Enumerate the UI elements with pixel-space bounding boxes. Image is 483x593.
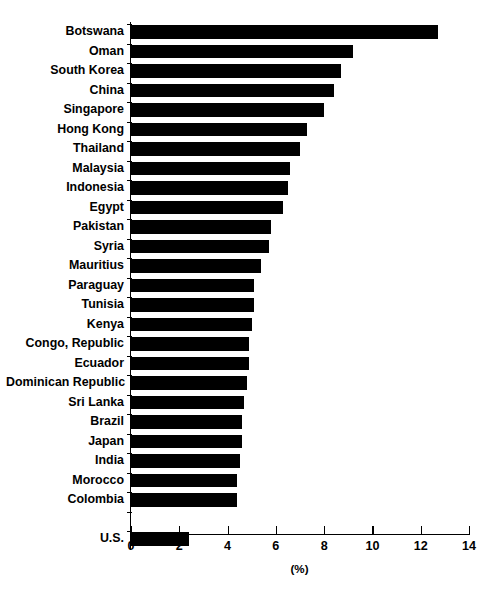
bar-track — [131, 217, 469, 237]
bar-row: Egypt — [0, 198, 483, 218]
category-label — [6, 510, 130, 530]
category-label: Hong Kong — [6, 120, 130, 140]
bar — [131, 64, 341, 78]
category-label: Oman — [6, 42, 130, 62]
category-label: Dominican Republic — [6, 373, 130, 393]
x-axis-tick-label: 0 — [111, 539, 151, 553]
bar-track — [131, 354, 469, 374]
bar-track — [131, 256, 469, 276]
bar — [131, 45, 353, 59]
x-axis-tick-label: 6 — [256, 539, 296, 553]
bar-row: Morocco — [0, 471, 483, 491]
bar-track — [131, 159, 469, 179]
bar-row — [0, 510, 483, 530]
bar-row: Hong Kong — [0, 120, 483, 140]
bar — [131, 201, 283, 215]
bar-track — [131, 42, 469, 62]
x-axis-tick — [324, 526, 325, 535]
bar — [131, 396, 244, 410]
x-axis-tick — [421, 526, 422, 535]
bar-row: South Korea — [0, 61, 483, 81]
bar-track — [131, 510, 469, 530]
bar-track — [131, 393, 469, 413]
bar-row: Singapore — [0, 100, 483, 120]
bar-chart: BotswanaOmanSouth KoreaChinaSingaporeHon… — [0, 0, 483, 593]
x-axis-tick-label: 8 — [304, 539, 344, 553]
category-label: Botswana — [6, 22, 130, 42]
bar-row: Syria — [0, 237, 483, 257]
bar-track — [131, 120, 469, 140]
bar-track — [131, 81, 469, 101]
category-label: Mauritius — [6, 256, 130, 276]
x-axis-tick — [372, 526, 373, 535]
bar-row: Dominican Republic — [0, 373, 483, 393]
bar-row: Paraguay — [0, 276, 483, 296]
x-axis-line — [130, 534, 469, 535]
bar-track — [131, 61, 469, 81]
x-axis-tick — [228, 526, 229, 535]
bar — [131, 220, 271, 234]
bar-row: Colombia — [0, 490, 483, 510]
bar-row: Brazil — [0, 412, 483, 432]
bar-track — [131, 198, 469, 218]
plot-area: BotswanaOmanSouth KoreaChinaSingaporeHon… — [0, 0, 483, 593]
category-label: Tunisia — [6, 295, 130, 315]
bar-row: Ecuador — [0, 354, 483, 374]
x-axis-tick — [179, 526, 180, 535]
category-label: Japan — [6, 432, 130, 452]
bar — [131, 103, 324, 117]
bar — [131, 84, 334, 98]
bar-track — [131, 237, 469, 257]
x-axis-tick-label: 2 — [159, 539, 199, 553]
bar-track — [131, 334, 469, 354]
category-label: Singapore — [6, 100, 130, 120]
bar-track — [131, 100, 469, 120]
category-label: Thailand — [6, 139, 130, 159]
category-label: Paraguay — [6, 276, 130, 296]
bar — [131, 493, 237, 507]
bar — [131, 279, 254, 293]
bar — [131, 123, 307, 137]
bar — [131, 318, 252, 332]
category-label: Ecuador — [6, 354, 130, 374]
bar-row: Tunisia — [0, 295, 483, 315]
x-axis-tick — [276, 526, 277, 535]
bar-row: Mauritius — [0, 256, 483, 276]
bar-row: Japan — [0, 432, 483, 452]
bar — [131, 259, 261, 273]
category-label: India — [6, 451, 130, 471]
bar-row: Kenya — [0, 315, 483, 335]
bar — [131, 415, 242, 429]
bar-row: Pakistan — [0, 217, 483, 237]
category-label: Brazil — [6, 412, 130, 432]
bar-track — [131, 471, 469, 491]
bar — [131, 240, 269, 254]
category-label: South Korea — [6, 61, 130, 81]
bar-track — [131, 412, 469, 432]
bar-track — [131, 295, 469, 315]
x-axis-tick-label: 14 — [449, 539, 483, 553]
bar — [131, 474, 237, 488]
bar-row: India — [0, 451, 483, 471]
bar-track — [131, 22, 469, 42]
bar-row: Indonesia — [0, 178, 483, 198]
bar-row: Oman — [0, 42, 483, 62]
bar-row: Malaysia — [0, 159, 483, 179]
category-label: Pakistan — [6, 217, 130, 237]
category-label: China — [6, 81, 130, 101]
bar-track — [131, 373, 469, 393]
bar-row: Thailand — [0, 139, 483, 159]
category-label: Congo, Republic — [6, 334, 130, 354]
bar-row: China — [0, 81, 483, 101]
bar-row: Sri Lanka — [0, 393, 483, 413]
bar — [131, 142, 300, 156]
x-axis-title: (%) — [130, 562, 469, 575]
category-label: Egypt — [6, 198, 130, 218]
bar — [131, 337, 249, 351]
category-label: Kenya — [6, 315, 130, 335]
bar — [131, 357, 249, 371]
bar-track — [131, 178, 469, 198]
bar-row: Congo, Republic — [0, 334, 483, 354]
bar-track — [131, 315, 469, 335]
bar-track — [131, 490, 469, 510]
